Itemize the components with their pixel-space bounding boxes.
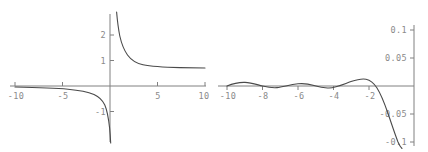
x-tick-label--8: -8: [257, 91, 268, 101]
y-tick-label-2: 2: [100, 30, 106, 40]
x-tick-label--6: -6: [293, 91, 304, 101]
y-ticks-left: [110, 35, 114, 112]
plot-right: -10 -8 -6 -4 -2 0.1 0.05 -0.05 -0.1: [214, 0, 428, 152]
plot-left-canvas: -10 -5 5 10 2 1 -1: [0, 0, 214, 152]
x-ticks-right: [227, 86, 369, 90]
y-tick-label-0.05: 0.05: [385, 53, 407, 63]
x-tick-label--4: -4: [328, 91, 339, 101]
y-tick-label-0.1: 0.1: [390, 25, 407, 35]
x-tick-label--2: -2: [364, 91, 375, 101]
x-tick-label--10: -10: [220, 91, 237, 101]
y-tick-label--0.05: -0.05: [379, 109, 407, 119]
plot-left: -10 -5 5 10 2 1 -1: [0, 0, 214, 152]
y-tick-label-1: 1: [100, 56, 106, 66]
x-tick-label--5: -5: [57, 91, 68, 101]
x-tick-label-5: 5: [155, 91, 161, 101]
x-tick-label-10: 10: [198, 91, 209, 101]
plot-right-canvas: -10 -8 -6 -4 -2 0.1 0.05 -0.05 -0.1: [214, 0, 428, 152]
dual-plot-figure: -10 -5 5 10 2 1 -1: [0, 0, 428, 152]
y-tick-label--0.1: -0.1: [385, 137, 407, 147]
curve-right-branch: [117, 12, 205, 68]
x-tick-label--10: -10: [8, 91, 25, 101]
y-tick-label--1: -1: [95, 107, 106, 117]
curve-oscillating-decay: [227, 79, 402, 149]
